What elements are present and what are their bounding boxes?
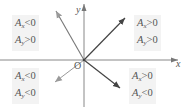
relation: <0 [142, 87, 153, 98]
relation: <0 [25, 87, 36, 98]
quadrant-label-bottom-right: Ax>0 Ay<0 [129, 68, 156, 104]
relation: >0 [25, 34, 36, 45]
origin-point [83, 59, 86, 62]
relation: >0 [142, 70, 153, 81]
x-axis-label: x [176, 58, 180, 69]
quadrant-label-top-right: Ax>0 Ay>0 [134, 15, 161, 51]
vector-ne [84, 18, 125, 60]
relation: <0 [25, 70, 36, 81]
quadrant-label-top-left: Ax<0 Ay>0 [12, 15, 39, 51]
relation: >0 [147, 17, 158, 28]
origin-label: O [74, 60, 81, 71]
relation: <0 [25, 17, 36, 28]
vector-nw [56, 11, 84, 60]
y-axis-label: y [76, 4, 80, 15]
vector-se [84, 60, 120, 88]
quadrant-label-bottom-left: Ax<0 Ay<0 [12, 68, 39, 104]
relation: >0 [147, 34, 158, 45]
